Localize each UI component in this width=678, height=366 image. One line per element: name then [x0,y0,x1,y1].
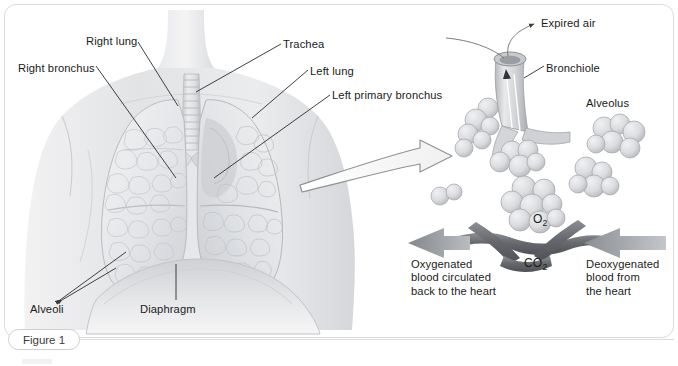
label-trachea: Trachea [283,38,324,51]
label-expired-air: Expired air [541,17,596,30]
label-alveolus: Alveolus [586,97,629,110]
label-diaphragm: Diaphragm [140,303,196,316]
figure-container: Right bronchus Right lung Trachea Left l… [0,0,678,366]
label-left-primary-bronchus: Left primary bronchus [332,89,442,102]
label-oxygen: O2 [533,212,547,228]
respiratory-diagram-artwork [0,0,678,366]
cropped-text-remnant [22,359,52,364]
caption-divider [80,339,674,340]
label-bronchiole: Bronchiole [546,62,600,75]
label-deoxygenated-blood: Deoxygenated blood from the heart [586,258,659,298]
figure-caption-text: Figure 1 [23,334,65,346]
label-right-lung: Right lung [86,35,137,48]
label-alveoli: Alveoli [30,303,64,316]
label-left-lung: Left lung [310,65,354,78]
label-carbon-dioxide: CO2 [524,256,547,272]
label-right-bronchus: Right bronchus [18,62,95,75]
label-oxygenated-blood: Oxygenated blood circulated back to the … [411,258,496,298]
figure-caption-badge: Figure 1 [8,329,80,350]
